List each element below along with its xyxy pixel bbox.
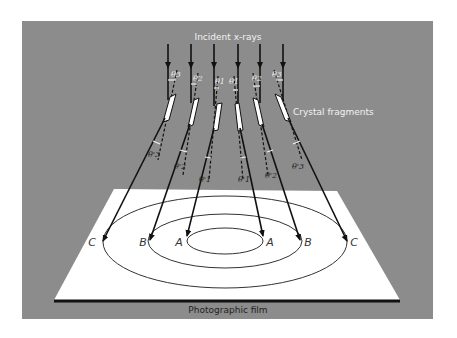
ring-label-b-left: B (139, 236, 147, 249)
theta-bottom-6: θ'3 (292, 162, 304, 171)
ring-label-a-right: A (265, 236, 274, 249)
theta-top-5: θ2 (252, 74, 262, 83)
theta-top-3: θ1 (215, 77, 225, 86)
theta-bottom-4: θ'1 (238, 175, 250, 184)
diffraction-diagram: Incident x-rays C B A A B C (0, 0, 457, 338)
ring-label-c-right: C (350, 236, 358, 249)
theta-top-6: θ3 (272, 70, 282, 79)
theta-bottom-5: θ'2 (265, 171, 277, 180)
theta-top-1: θ3 (171, 70, 181, 79)
ring-label-a-left: A (174, 236, 183, 249)
photographic-film-label: Photographic film (188, 305, 267, 315)
theta-bottom-3: θ'1 (199, 175, 211, 184)
ring-label-b-right: B (304, 236, 312, 249)
incident-xrays-label: Incident x-rays (195, 32, 262, 42)
theta-bottom-2: θ'2 (174, 162, 186, 171)
theta-bottom-1: θ'3 (148, 150, 160, 159)
crystal-fragments-label: Crystal fragments (293, 107, 374, 117)
ring-label-c-left: C (88, 236, 96, 249)
theta-top-2: θ2 (193, 74, 203, 83)
theta-top-4: θ1 (229, 77, 239, 86)
